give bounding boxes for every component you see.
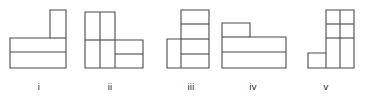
figure-label-iii: iii (188, 82, 195, 92)
figure-label-v: v (324, 82, 329, 92)
figure-label-iv: iv (249, 82, 256, 92)
figure-label-ii: ii (108, 82, 113, 92)
figure-sheet: i ii iii iv v (0, 0, 366, 98)
figure-labels: i ii iii iv v (0, 0, 366, 98)
figure-label-i: i (38, 82, 40, 92)
